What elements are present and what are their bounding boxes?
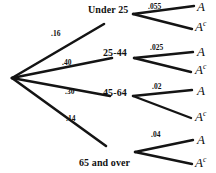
outcome-label-a-45-64: A xyxy=(197,84,205,97)
branch-65-and-over-to-a xyxy=(135,140,193,152)
node-label-45-64: 45-64 xyxy=(103,88,127,98)
outcome-superscript: c xyxy=(203,62,206,71)
outcome-base: A xyxy=(195,109,203,124)
probability-label-a-given-25-44: .025 xyxy=(150,44,163,52)
branch-root-to-45-64 xyxy=(12,78,110,96)
probability-tree-figure: Under 25 25-44 45-64 65 and over .16 .40… xyxy=(0,0,216,173)
probability-label-25-44: .40 xyxy=(62,59,71,67)
node-label-65-and-over: 65 and over xyxy=(79,158,130,168)
probability-label-a-given-under-25: .055 xyxy=(148,3,161,11)
outcome-base: A xyxy=(195,155,203,170)
probability-label-a-given-65-and-over: .04 xyxy=(151,131,160,139)
branch-45-64-to-ac xyxy=(133,96,191,118)
probability-label-a-given-45-64: .02 xyxy=(152,83,161,91)
probability-label-under-25: .16 xyxy=(51,30,60,38)
outcome-label-a-65-and-over: A xyxy=(197,133,205,146)
outcome-label-ac-45-64: Ac xyxy=(195,110,206,123)
outcome-label-ac-under-25: Ac xyxy=(195,20,206,33)
outcome-base: A xyxy=(195,19,203,34)
outcome-label-ac-65-and-over: Ac xyxy=(195,156,206,169)
outcome-superscript: c xyxy=(203,155,206,164)
outcome-superscript: c xyxy=(203,19,206,28)
branch-under-25-to-ac xyxy=(133,14,192,29)
node-label-under-25: Under 25 xyxy=(88,5,128,15)
outcome-superscript: c xyxy=(203,109,206,118)
branch-45-64-to-a xyxy=(133,90,192,96)
outcome-label-a-under-25: A xyxy=(197,0,205,13)
outcome-label-a-25-44: A xyxy=(197,45,205,58)
branch-root-to-65-and-over xyxy=(12,78,106,146)
node-label-25-44: 25-44 xyxy=(103,48,127,58)
branch-25-44-to-ac xyxy=(134,58,191,72)
probability-label-65-and-over: .14 xyxy=(66,115,75,123)
probability-label-45-64: .30 xyxy=(65,88,74,96)
outcome-label-ac-25-44: Ac xyxy=(195,63,206,76)
branch-25-44-to-a xyxy=(134,52,193,58)
branch-under-25-to-a xyxy=(133,6,194,14)
branch-65-and-over-to-ac xyxy=(135,152,192,164)
outcome-base: A xyxy=(195,62,203,77)
